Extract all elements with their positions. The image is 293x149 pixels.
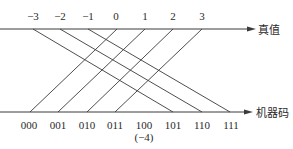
true-value-to-machine-code-diagram: 真值 −3 −2 −1 0 1 2 3 机器码 000 001 010 011 …: [0, 0, 293, 149]
mapping-lines: [30, 29, 230, 112]
bottom-tick-label: 001: [50, 119, 67, 131]
bottom-tick-label: 100: [136, 119, 153, 131]
bottom-tick-label: 010: [79, 119, 96, 131]
top-tick-label: 3: [199, 10, 205, 22]
bottom-annotation: (−4): [134, 131, 153, 144]
top-axis-label: 真值: [258, 23, 280, 37]
top-tick-label: 1: [142, 10, 148, 22]
mapping-line-neg2-to-110: [60, 29, 202, 112]
top-axis: 真值 −3 −2 −1 0 1 2 3: [0, 10, 280, 37]
mapping-line-neg3-to-101: [33, 29, 173, 112]
mapping-line-2-to-010: [87, 29, 173, 112]
bottom-tick-label: 111: [223, 119, 239, 131]
bottom-tick-label: 101: [165, 119, 182, 131]
bottom-axis-label: 机器码: [256, 106, 289, 120]
top-tick-label: −2: [54, 10, 66, 22]
mapping-line-0-to-000: [30, 29, 117, 112]
bottom-tick-label: 000: [21, 119, 38, 131]
mapping-line-1-to-001: [58, 29, 145, 112]
bottom-tick-label: 110: [194, 119, 211, 131]
mapping-line-neg1-to-111: [88, 29, 230, 112]
bottom-axis: 机器码 000 001 010 011 100 101 110 111 (−4): [0, 106, 289, 145]
top-axis-arrow-icon: [247, 27, 256, 32]
top-tick-label: −1: [82, 10, 94, 22]
bottom-tick-label: 011: [107, 119, 123, 131]
bottom-axis-arrow-icon: [244, 110, 253, 115]
top-tick-label: 0: [113, 10, 119, 22]
top-tick-label: 2: [170, 10, 176, 22]
top-tick-label: −3: [27, 10, 39, 22]
